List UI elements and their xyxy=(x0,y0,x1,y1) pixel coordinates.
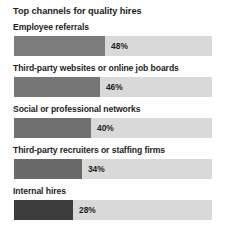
bar-value-label: 28% xyxy=(79,200,96,220)
bar-list: Employee referrals 48% Third-party websi… xyxy=(0,22,226,227)
bar-row-label: Third-party websites or online job board… xyxy=(13,63,179,74)
chart-container: Top channels for quality hires Employee … xyxy=(0,0,226,238)
bar-fill xyxy=(14,77,100,97)
bar-value-label: 40% xyxy=(97,118,114,138)
bar-fill xyxy=(14,36,105,56)
bar-row: Employee referrals 48% xyxy=(0,22,226,63)
bar-track xyxy=(14,159,212,179)
bar-row-label: Employee referrals xyxy=(13,22,89,33)
bar-value-label: 48% xyxy=(111,36,128,56)
bar-fill xyxy=(14,159,82,179)
bar-fill xyxy=(14,200,73,220)
bar-value-label: 34% xyxy=(88,159,105,179)
bar-row: Third-party websites or online job board… xyxy=(0,63,226,104)
bar-fill xyxy=(14,118,91,138)
bar-track xyxy=(14,200,212,220)
bar-row-label: Internal hires xyxy=(13,186,66,197)
bar-row: Third-party recruiters or staffing firms… xyxy=(0,145,226,186)
bar-value-label: 46% xyxy=(106,77,123,97)
bar-row-label: Third-party recruiters or staffing firms xyxy=(13,145,165,156)
chart-title: Top channels for quality hires xyxy=(13,5,142,17)
bar-row: Social or professional networks 40% xyxy=(0,104,226,145)
bar-row-label: Social or professional networks xyxy=(13,104,140,115)
bar-row: Internal hires 28% xyxy=(0,186,226,227)
